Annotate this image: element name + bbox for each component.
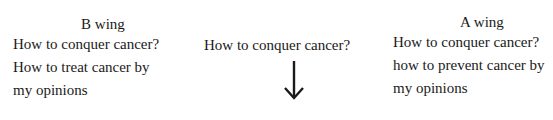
b-wing-line-3: my opinions <box>13 81 88 99</box>
a-wing-title: A wing <box>442 13 522 31</box>
a-wing-line-3: my opinions <box>393 79 468 97</box>
a-wing-line-2: how to prevent cancer by <box>393 56 545 74</box>
b-wing-line-1: How to conquer cancer? <box>13 35 159 53</box>
b-wing-line-2: How to treat cancer by <box>13 58 150 76</box>
a-wing-line-1: How to conquer cancer? <box>393 33 539 51</box>
down-arrow-icon <box>283 60 305 100</box>
b-wing-title: B wing <box>63 15 143 33</box>
center-question: How to conquer cancer? <box>204 36 350 54</box>
